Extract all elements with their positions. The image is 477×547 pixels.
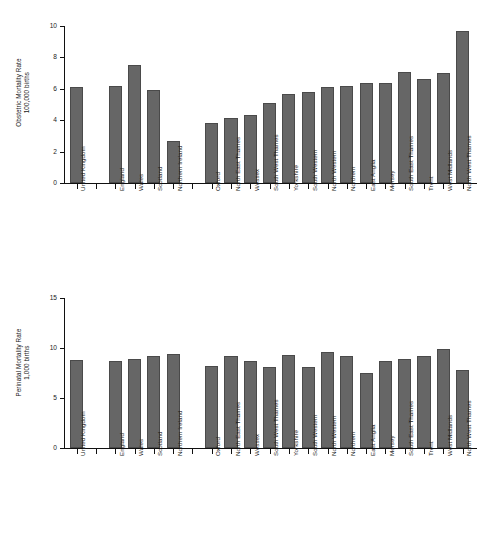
- x-axis-tick-label: Scotland: [156, 167, 163, 191]
- x-axis-tick-label: North Western: [330, 151, 337, 191]
- x-axis-tick-label: England: [118, 433, 125, 456]
- perinatal-x-tick: [173, 449, 174, 454]
- obstetric-y-tick: [60, 152, 64, 153]
- bar: [417, 356, 430, 448]
- plot-area-obstetric: 0246810United KingdomEnglandWalesScotlan…: [0, 0, 473, 280]
- perinatal-x-tick: [424, 449, 425, 454]
- obstetric-x-tick: [212, 184, 213, 189]
- x-axis-tick-label: Northern Ireland: [176, 145, 183, 191]
- obstetric-y-tick: [60, 26, 64, 27]
- x-axis-tick-label: Northern Ireland: [176, 410, 183, 456]
- obstetric-x-tick: [463, 184, 464, 189]
- obstetric-x-tick-blank: [192, 184, 193, 189]
- perinatal-x-tick: [405, 449, 406, 454]
- perinatal-x-tick: [308, 449, 309, 454]
- x-axis-tick-label: Mersey: [388, 170, 395, 191]
- perinatal-x-tick: [115, 449, 116, 454]
- x-axis-tick-label: North West Thames: [465, 135, 472, 191]
- obstetric-x-tick: [231, 184, 232, 189]
- obstetric-x-tick: [443, 184, 444, 189]
- x-axis-tick-label: Northern: [349, 432, 356, 456]
- obstetric-x-tick: [424, 184, 425, 189]
- perinatal-x-tick: [328, 449, 329, 454]
- perinatal-y-axis: [64, 298, 65, 448]
- obstetric-y-tick-label: 4: [34, 116, 57, 123]
- perinatal-x-tick: [231, 449, 232, 454]
- obstetric-x-tick: [308, 184, 309, 189]
- x-axis-tick-label: South East Thames: [407, 401, 414, 456]
- perinatal-x-tick: [385, 449, 386, 454]
- perinatal-x-tick-blank: [96, 449, 97, 454]
- bar: [128, 359, 141, 449]
- x-axis-tick-label: Trent: [427, 177, 434, 191]
- obstetric-x-tick: [250, 184, 251, 189]
- obstetric-y-tick-label: 8: [34, 53, 57, 60]
- x-axis-tick-label: North Western: [330, 416, 337, 456]
- obstetric-x-tick: [405, 184, 406, 189]
- obstetric-y-axis: [64, 26, 65, 183]
- perinatal-y-tick: [60, 348, 64, 349]
- obstetric-y-tick-label: 2: [34, 148, 57, 155]
- perinatal-y-tick-label: 5: [34, 394, 57, 401]
- obstetric-y-tick-label: 0: [34, 179, 57, 186]
- bar: [128, 65, 141, 183]
- perinatal-x-tick-blank: [192, 449, 193, 454]
- x-axis-tick-label: South East Thames: [407, 136, 414, 191]
- obstetric-x-tick: [115, 184, 116, 189]
- obstetric-x-tick: [347, 184, 348, 189]
- perinatal-x-tick: [212, 449, 213, 454]
- x-axis-tick-label: South Western: [311, 150, 318, 191]
- perinatal-x-tick: [250, 449, 251, 454]
- obstetric-x-tick: [173, 184, 174, 189]
- x-axis-tick-label: United Kingdom: [79, 411, 86, 456]
- perinatal-y-tick-label: 0: [34, 444, 57, 451]
- obstetric-x-tick: [270, 184, 271, 189]
- perinatal-y-tick-label: 10: [34, 344, 57, 351]
- plot-area-perinatal: 051015United KingdomEnglandWalesScotland…: [0, 280, 473, 547]
- x-axis-tick-label: West Midlands: [446, 415, 453, 456]
- x-axis-tick-label: North East Thames: [234, 137, 241, 191]
- x-axis-tick-label: Wales: [137, 439, 144, 456]
- obstetric-x-tick-blank: [96, 184, 97, 189]
- obstetric-x-tick: [385, 184, 386, 189]
- chart-panel-obstetric: Obstetric Mortality Rate 100,000 births …: [0, 0, 473, 280]
- obstetric-y-tick-label: 10: [34, 22, 57, 29]
- perinatal-x-tick: [347, 449, 348, 454]
- obstetric-x-tick: [154, 184, 155, 189]
- bar: [379, 83, 392, 183]
- perinatal-x-tick: [443, 449, 444, 454]
- x-axis-tick-label: North West Thames: [465, 400, 472, 456]
- obstetric-x-tick: [366, 184, 367, 189]
- x-axis-tick-label: Wales: [137, 174, 144, 191]
- perinatal-y-tick: [60, 298, 64, 299]
- bar: [417, 79, 430, 183]
- x-axis-tick-label: West Midlands: [446, 150, 453, 191]
- x-axis-tick-label: United Kingdom: [79, 146, 86, 191]
- x-axis-tick-label: Oxford: [214, 172, 221, 191]
- bar: [205, 366, 218, 448]
- obstetric-x-tick: [77, 184, 78, 189]
- x-axis-tick-label: South West Thames: [272, 134, 279, 191]
- obstetric-y-tick-label: 6: [34, 85, 57, 92]
- obstetric-y-tick: [60, 120, 64, 121]
- x-axis-tick-label: Scotland: [156, 432, 163, 456]
- perinatal-x-tick: [463, 449, 464, 454]
- perinatal-x-tick: [154, 449, 155, 454]
- chart-panel-perinatal: Perinatal Mortality Rate 1,000 births 05…: [0, 280, 473, 547]
- x-axis-tick-label: North East Thames: [234, 402, 241, 456]
- perinatal-x-tick: [289, 449, 290, 454]
- x-axis-tick-label: England: [118, 168, 125, 191]
- x-axis-tick-label: Mersey: [388, 435, 395, 456]
- obstetric-y-tick: [60, 89, 64, 90]
- x-axis-tick-label: South Western: [311, 415, 318, 456]
- x-axis-tick-label: Yorkshire: [292, 430, 299, 456]
- x-axis-tick-label: East Anglia: [369, 424, 376, 456]
- obstetric-x-tick: [328, 184, 329, 189]
- x-axis-tick-label: South West Thames: [272, 399, 279, 456]
- x-axis-tick-label: Wessex: [253, 169, 260, 191]
- perinatal-y-tick: [60, 398, 64, 399]
- obstetric-x-tick: [135, 184, 136, 189]
- x-axis-tick-label: Trent: [427, 442, 434, 456]
- obstetric-y-tick: [60, 57, 64, 58]
